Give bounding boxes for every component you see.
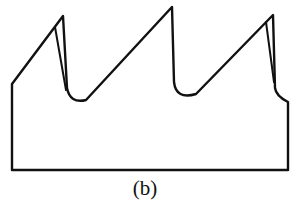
sawtooth-figure: (b) [0, 0, 290, 207]
figure-caption: (b) [0, 174, 290, 202]
sawtooth-outline [12, 7, 288, 170]
